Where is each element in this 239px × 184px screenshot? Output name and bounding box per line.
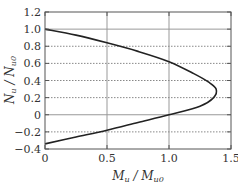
x-tick-label: 0 — [42, 152, 49, 165]
x-tick-label: 1.5 — [222, 152, 238, 165]
interaction-diagram-chart: 00.51.01.5 −0.4−0.200.20.40.60.81.01.2 M… — [0, 0, 238, 184]
y-tick-labels: −0.4−0.200.20.40.60.81.01.2 — [14, 6, 41, 156]
y-tick-label: 1.2 — [24, 6, 42, 19]
y-tick-label: 0.2 — [24, 92, 42, 105]
x-axis-label: Mu / Mu0 — [111, 169, 164, 184]
y-tick-label: 0 — [34, 109, 41, 122]
y-tick-label: 0.4 — [24, 75, 42, 88]
y-axis-label: Nu / Nu0 — [3, 56, 18, 105]
x-tick-label: 1.0 — [160, 152, 178, 165]
x-tick-label: 0.5 — [98, 152, 116, 165]
interaction-curve — [45, 29, 216, 144]
y-tick-label: −0.2 — [14, 126, 41, 139]
y-tick-label: −0.4 — [14, 143, 41, 156]
y-tick-label: 1.0 — [24, 23, 42, 36]
grid-lines — [45, 12, 231, 149]
y-tick-label: 0.8 — [24, 40, 42, 53]
y-tick-label: 0.6 — [24, 57, 42, 70]
x-tick-labels: 00.51.01.5 — [42, 152, 239, 165]
